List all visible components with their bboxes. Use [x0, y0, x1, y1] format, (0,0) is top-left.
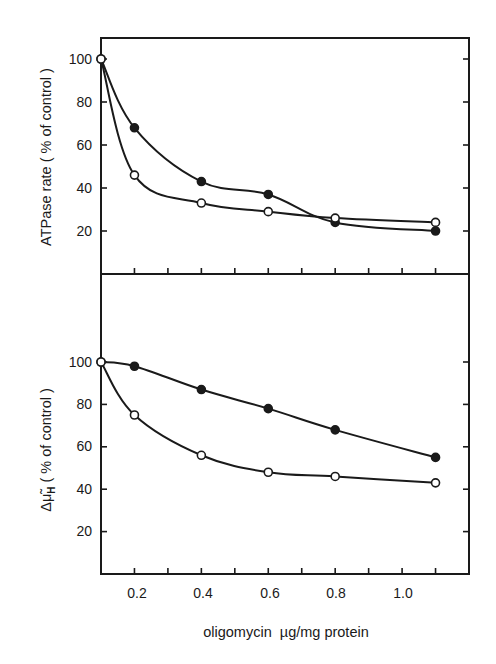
top-open-point — [130, 171, 138, 179]
top-open-point — [331, 214, 339, 222]
bottom-ytick-80: 80 — [76, 396, 92, 412]
bottom-filled-point — [432, 453, 440, 461]
top-ytick-60: 60 — [76, 137, 92, 153]
x-tick-labels: 0.2 0.4 0.6 0.8 1.0 — [127, 585, 413, 601]
bottom-open-point — [432, 479, 440, 487]
xtick-0.4: 0.4 — [193, 585, 213, 601]
bottom-filled-point — [130, 362, 138, 370]
bottom-open-point — [264, 468, 272, 476]
bottom-filled-point — [331, 426, 339, 434]
bottom-y-axis-title: Δμ̃H ( % of control ) — [38, 388, 57, 512]
xtick-1.0: 1.0 — [393, 585, 413, 601]
plot-frame — [101, 38, 469, 574]
bottom-ylabel-suffix: ( % of control ) — [38, 388, 54, 486]
top-open-point — [97, 55, 105, 63]
top-ytick-80: 80 — [76, 94, 92, 110]
xtick-0.8: 0.8 — [326, 585, 346, 601]
top-filled-point — [264, 190, 272, 198]
bottom-open-point — [130, 411, 138, 419]
top-y-axis-title: ATPase rate ( % of control ) — [38, 68, 54, 246]
top-filled-curve — [101, 59, 436, 231]
bottom-open-curve — [101, 362, 436, 483]
top-open-point — [197, 199, 205, 207]
bottom-filled-point — [264, 405, 272, 413]
bottom-ytick-20: 20 — [76, 523, 92, 539]
bottom-open-point — [197, 451, 205, 459]
xtick-0.2: 0.2 — [127, 585, 147, 601]
axis-ticks — [101, 59, 469, 574]
top-filled-point — [130, 124, 138, 132]
bottom-ytick-60: 60 — [76, 438, 92, 454]
top-open-point — [432, 218, 440, 226]
bottom-open-point — [97, 358, 105, 366]
bottom-filled-point — [197, 386, 205, 394]
xtick-0.6: 0.6 — [260, 585, 280, 601]
bottom-y-tick-labels: 100 80 60 40 20 — [69, 354, 93, 539]
top-y-tick-labels: 100 80 60 40 20 — [69, 51, 93, 239]
x-axis-title: oligomycin µg/mg protein — [203, 624, 369, 640]
top-filled-point — [432, 227, 440, 235]
top-ytick-40: 40 — [76, 180, 92, 196]
top-ytick-20: 20 — [76, 223, 92, 239]
bottom-ytick-100: 100 — [69, 354, 93, 370]
bottom-ytick-40: 40 — [76, 481, 92, 497]
figure: 100 80 60 40 20 100 80 60 40 20 0.2 0.4 … — [0, 0, 496, 664]
top-filled-point — [197, 178, 205, 186]
top-open-point — [264, 208, 272, 216]
bottom-open-point — [331, 472, 339, 480]
subscript-h: H — [46, 487, 57, 494]
top-ytick-100: 100 — [69, 51, 93, 67]
